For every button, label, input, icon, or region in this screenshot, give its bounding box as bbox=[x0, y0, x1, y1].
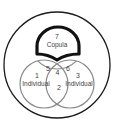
overlap-4-number: 4 bbox=[56, 69, 60, 76]
overlap-2-number: 2 bbox=[57, 84, 61, 91]
right-number: 3 bbox=[76, 72, 80, 79]
left-number: 1 bbox=[35, 72, 39, 79]
overlap-6-number: 6 bbox=[66, 65, 70, 72]
venn-diagram: 7 Copula 1 Individual 3 Individual 2 4 5… bbox=[0, 0, 114, 129]
overlap-5-number: 5 bbox=[46, 65, 50, 72]
copula-label: Copula bbox=[47, 41, 68, 49]
right-label: Individual bbox=[65, 80, 93, 87]
copula-number: 7 bbox=[55, 33, 59, 40]
left-label: Individual bbox=[22, 80, 50, 87]
